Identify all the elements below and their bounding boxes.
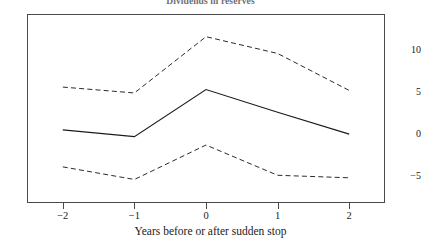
series-line [63, 90, 349, 137]
x-tick-label: −2 [48, 210, 78, 222]
chart-figure: Dividends in reserves 1050−5 −2−1012 Yea… [0, 0, 421, 246]
y-tick-label: −5 [399, 171, 421, 181]
x-tick-label: −1 [119, 210, 149, 222]
series-line [63, 37, 349, 93]
x-tick-label: 1 [263, 210, 293, 222]
series-layer [27, 14, 385, 203]
y-tick-label: 5 [399, 87, 421, 97]
plot-area [27, 14, 385, 203]
x-axis-title: Years before or after sudden stop [0, 224, 421, 238]
x-tick-mark [278, 203, 279, 209]
x-tick-label: 2 [334, 210, 364, 222]
x-tick-mark [349, 203, 350, 209]
x-tick-mark [134, 203, 135, 209]
series-line [63, 145, 349, 179]
x-tick-mark [63, 203, 64, 209]
y-tick-label: 10 [399, 45, 421, 55]
y-tick-label: 0 [399, 129, 421, 139]
x-tick-label: 0 [191, 210, 221, 222]
x-tick-mark [206, 203, 207, 209]
